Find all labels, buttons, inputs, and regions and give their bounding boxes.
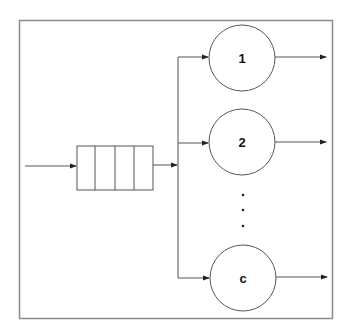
ellipsis-dots — [242, 194, 245, 228]
server-2: 2 — [209, 109, 275, 175]
system-boundary-frame — [20, 21, 333, 319]
server-1-label: 1 — [238, 51, 245, 66]
server-c-label: c — [239, 271, 246, 286]
server-c: c — [210, 245, 276, 311]
server-1: 1 — [209, 25, 275, 91]
queue-diagram: 1 2 c — [0, 0, 350, 336]
server-2-label: 2 — [238, 135, 245, 150]
queue-buffer — [77, 146, 153, 190]
